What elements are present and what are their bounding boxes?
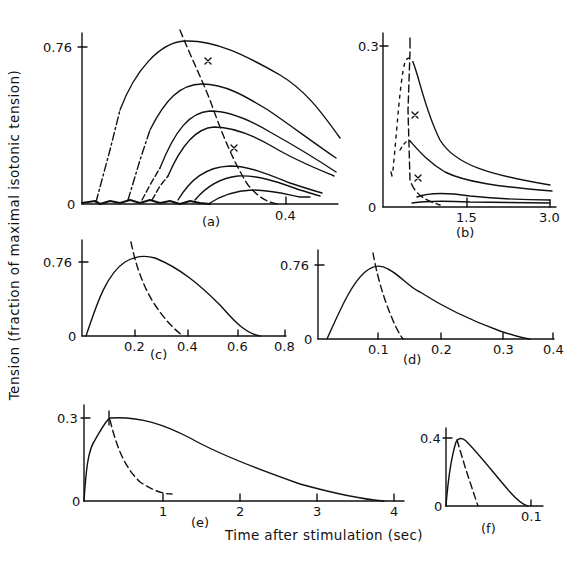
panel-e-label: (e) xyxy=(191,515,209,530)
panel-c-xtick-4: 0.8 xyxy=(274,340,295,353)
panel-e-curves xyxy=(84,411,384,501)
panel-f-xtick-1: 0.1 xyxy=(521,510,542,523)
panel-e-xtick-2: 2 xyxy=(236,505,244,518)
panel-c-ytick-zero: 0 xyxy=(68,330,76,343)
panel-b-ytick-max: 0.3 xyxy=(358,40,379,53)
panel-f-curves xyxy=(446,438,528,506)
panel-a-curves xyxy=(82,30,340,204)
panel-e-ytick-max: 0.3 xyxy=(57,412,78,425)
panel-d-xtick-4: 0.4 xyxy=(543,343,564,356)
panel-a-xtick: 0.4 xyxy=(275,209,296,222)
panel-f-ytick-max: 0.4 xyxy=(420,432,441,445)
x-axis-title: Time after stimulation (sec) xyxy=(225,527,423,543)
panel-b-ytick-zero: 0 xyxy=(368,201,376,214)
panel-b-xtick-2: 3.0 xyxy=(539,211,560,224)
panel-a-ytick-zero: 0 xyxy=(67,198,75,211)
panel-e-ytick-zero: 0 xyxy=(72,495,80,508)
panel-e-xtick-1: 1 xyxy=(159,505,167,518)
panel-a-label: (a) xyxy=(202,214,220,229)
y-axis-title: Tension (fraction of maximal isotonic te… xyxy=(6,40,22,430)
panel-f-ytick-zero: 0 xyxy=(434,500,442,513)
panel-d-xtick-3: 0.3 xyxy=(493,343,514,356)
panel-c-xtick-2: 0.4 xyxy=(177,340,198,353)
panel-d-ytick-max: 0.76 xyxy=(280,259,309,272)
panel-b-xtick-1: 1.5 xyxy=(456,211,477,224)
panel-e-xtick-3: 3 xyxy=(313,505,321,518)
panel-f-label: (f) xyxy=(481,521,496,536)
panel-c-curves xyxy=(86,242,260,336)
panel-d-xtick-2: 0.2 xyxy=(431,343,452,356)
panel-b-curves xyxy=(391,38,552,205)
panel-e-xtick-4: 4 xyxy=(390,505,398,518)
panel-d-curves xyxy=(327,253,530,339)
panel-a-axes xyxy=(78,33,338,204)
panel-c-xtick-1: 0.2 xyxy=(124,340,145,353)
panel-d-ytick-zero: 0 xyxy=(304,333,312,346)
panel-b-label: (b) xyxy=(456,225,474,240)
panel-d-axes xyxy=(315,250,554,339)
panel-e-axes xyxy=(81,405,404,501)
panel-c-axes xyxy=(79,240,286,336)
panel-d-xtick-1: 0.1 xyxy=(368,343,389,356)
panel-c-label: (c) xyxy=(150,347,167,362)
panel-a-ytick-max: 0.76 xyxy=(43,41,72,54)
panel-d-label: (d) xyxy=(403,352,421,367)
panel-c-ytick-max: 0.76 xyxy=(43,256,72,269)
figure-canvas xyxy=(0,0,581,568)
panel-c-xtick-3: 0.6 xyxy=(227,340,248,353)
